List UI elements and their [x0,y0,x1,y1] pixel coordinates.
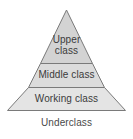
pyramid-band-working [8,88,126,111]
social-class-pyramid-diagram: Upper class Middle class Working class U… [0,0,133,139]
pyramid-band-middle [29,64,105,88]
pyramid-label-underclass: Underclass [0,117,133,129]
pyramid-band-upper [41,10,93,64]
